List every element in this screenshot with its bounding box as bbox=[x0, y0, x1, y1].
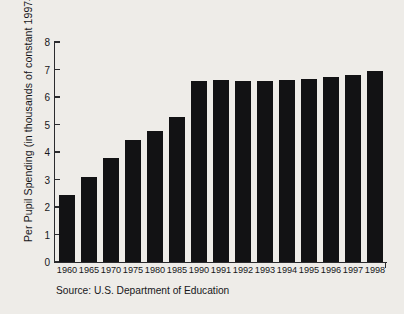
bar-1960 bbox=[59, 195, 76, 262]
source-note: Source: U.S. Department of Education bbox=[56, 285, 229, 296]
bar-1992 bbox=[235, 81, 252, 262]
bar-1996 bbox=[323, 77, 340, 262]
x-axis-line bbox=[54, 262, 387, 263]
bar-1994 bbox=[279, 80, 296, 262]
y-tick-label-1: 1 bbox=[36, 229, 50, 240]
plot-area bbox=[56, 42, 386, 262]
bar-1998 bbox=[367, 71, 384, 262]
bar-1990 bbox=[191, 81, 208, 263]
y-tick-label-3: 3 bbox=[36, 174, 50, 185]
bar-1975 bbox=[125, 140, 142, 262]
bar-1965 bbox=[81, 177, 98, 262]
bar-1970 bbox=[103, 158, 120, 262]
y-tick-label-8: 8 bbox=[36, 37, 50, 48]
x-tick-label-1998: 1998 bbox=[361, 265, 389, 275]
y-tick-label-7: 7 bbox=[36, 64, 50, 75]
y-tick-label-5: 5 bbox=[36, 119, 50, 130]
y-tick-label-0: 0 bbox=[36, 257, 50, 268]
bar-1985 bbox=[169, 117, 186, 262]
bar-1993 bbox=[257, 81, 274, 262]
bar-1980 bbox=[147, 131, 164, 262]
y-axis-title: Per Pupil Spending (in thousands of cons… bbox=[22, 0, 34, 242]
bar-1997 bbox=[345, 75, 362, 262]
bar-1991 bbox=[213, 80, 230, 262]
y-tick-label-4: 4 bbox=[36, 147, 50, 158]
y-tick-label-2: 2 bbox=[36, 202, 50, 213]
chart-figure: Per Pupil Spending (in thousands of cons… bbox=[0, 0, 404, 314]
y-tick-label-6: 6 bbox=[36, 92, 50, 103]
bar-1995 bbox=[301, 79, 318, 262]
